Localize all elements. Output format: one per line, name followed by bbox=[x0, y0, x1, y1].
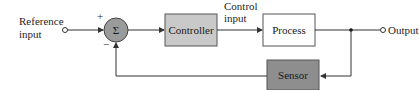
block-diagram: Reference input Σ + − Controller Control… bbox=[0, 0, 419, 90]
minus-sign: − bbox=[103, 38, 109, 50]
output-terminal bbox=[381, 28, 386, 33]
control-input-label-line1: Control bbox=[224, 0, 258, 12]
sensor-to-summing-line bbox=[116, 43, 267, 76]
reference-input-terminal bbox=[63, 28, 68, 33]
output-to-sensor-line bbox=[321, 30, 351, 76]
reference-input-label-line2: input bbox=[19, 28, 42, 40]
reference-input-label-line1: Reference bbox=[19, 15, 64, 27]
output-label: Output bbox=[388, 24, 419, 36]
sensor-label: Sensor bbox=[278, 69, 308, 81]
control-input-label-line2: input bbox=[224, 12, 247, 24]
plus-sign: + bbox=[97, 10, 103, 22]
sigma-symbol: Σ bbox=[113, 24, 119, 36]
process-label: Process bbox=[272, 24, 306, 36]
controller-label: Controller bbox=[168, 24, 214, 36]
